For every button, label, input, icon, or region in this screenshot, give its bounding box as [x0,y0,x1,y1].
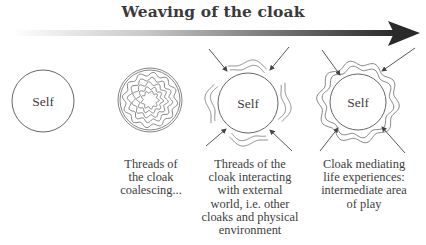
stage-1-self: Self [12,70,74,132]
caption-line: intermediate area [308,184,420,197]
arrow-icon [382,127,405,153]
arrow-icon [270,47,289,70]
arrow-icon [320,128,338,151]
arrow-icon [206,129,226,146]
arrow-icon [322,50,340,75]
stage-2-threads-coalescing [118,68,182,132]
caption-line: world, i.e. other [198,198,302,211]
wavy-thread-ring [122,72,177,127]
caption-line: environment [198,224,302,237]
self-label: Self [347,95,369,110]
caption-stage-2: Threads of the cloak coalescing... [103,158,199,198]
arrow-shaft [12,30,394,36]
caption-line: of play [308,198,420,211]
self-label: Self [237,96,259,111]
progress-arrow [12,21,420,46]
stage-4-cloak-mediating: Self [317,48,415,153]
caption-stage-3: Threads of the cloak interacting with ex… [198,158,302,237]
wavy-thread-ring [141,91,159,109]
caption-line: with external [198,184,302,197]
caption-line: coalescing... [103,184,199,197]
arrow-icon [382,48,415,71]
caption-stage-4: Cloak mediating life experiences: interm… [308,158,420,211]
arrow-icon [209,49,227,71]
arrow-icon [270,130,292,151]
outer-circle [118,68,182,132]
self-label: Self [32,94,54,109]
stage-3-external-interaction: Self [205,47,292,151]
